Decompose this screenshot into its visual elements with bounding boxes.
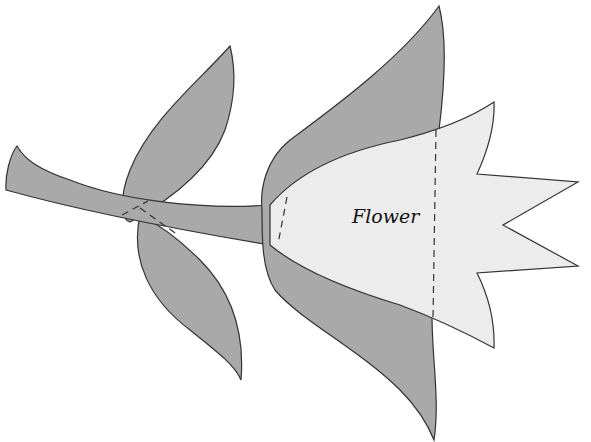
flower-diagram: Flower (0, 0, 591, 442)
upper-leaf (122, 46, 233, 222)
lower-leaf (137, 215, 241, 380)
flower-label: Flower (352, 205, 419, 227)
flower-illustration (0, 0, 591, 442)
